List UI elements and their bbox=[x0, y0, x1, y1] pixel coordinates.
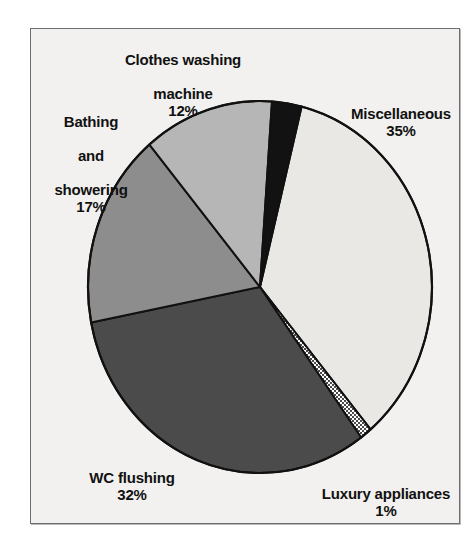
label-line-2: and bbox=[78, 147, 104, 164]
slice-label-miscellaneous: Miscellaneous 35% bbox=[327, 88, 475, 156]
label-line-1: WC flushing bbox=[89, 469, 174, 486]
label-percent: 17% bbox=[26, 198, 156, 215]
label-percent: 32% bbox=[48, 486, 216, 503]
label-line-2: machine bbox=[153, 85, 212, 102]
label-line-1: Miscellaneous bbox=[351, 105, 451, 122]
slice-label-wc-flushing: WC flushing 32% bbox=[48, 452, 216, 520]
figure-root: Clothes washing machine 12% Bathing and … bbox=[0, 0, 475, 546]
slice-label-luxury-appliances: Luxury appliances 1% bbox=[296, 468, 475, 536]
label-line-3: showering bbox=[54, 181, 127, 198]
label-line-1: Bathing bbox=[64, 113, 118, 130]
label-line-1: Luxury appliances bbox=[322, 485, 450, 502]
label-percent: 1% bbox=[296, 502, 475, 519]
label-percent: 35% bbox=[327, 122, 475, 139]
slice-label-bathing-and-showering: Bathing and showering 17% bbox=[26, 96, 156, 232]
label-line-1: Clothes washing bbox=[125, 51, 241, 68]
